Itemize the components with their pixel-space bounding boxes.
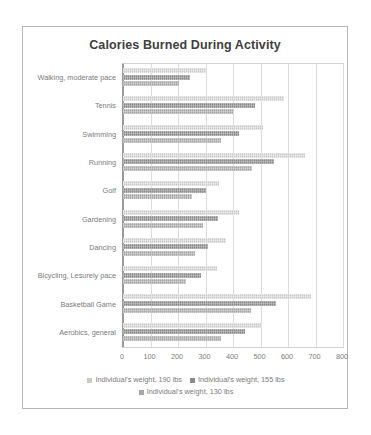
bar-group	[123, 177, 343, 205]
bar-group	[123, 319, 343, 347]
category-label: Dancing	[89, 242, 116, 251]
bar	[123, 294, 311, 299]
bar-group	[123, 262, 343, 290]
bar	[123, 68, 206, 73]
legend-label: Individual's weight, 190 lbs	[95, 374, 182, 386]
bar	[123, 125, 263, 130]
x-tick-label: 300	[198, 352, 210, 361]
category-label: Walking, moderate pace	[38, 73, 116, 82]
bar	[123, 273, 201, 278]
category-label: Golf	[103, 186, 116, 195]
bar-group	[123, 64, 343, 92]
plot-wrapper: Walking, moderate paceTennisSwimmingRunn…	[23, 63, 349, 363]
legend-row-primary: Individual's weight, 190 lbsIndividual's…	[23, 374, 349, 386]
legend-item[interactable]: Individual's weight, 130 lbs	[139, 386, 234, 398]
legend-swatch-icon	[190, 378, 195, 383]
bar	[123, 109, 233, 114]
bar-group	[123, 92, 343, 120]
legend-item[interactable]: Individual's weight, 155 lbs	[190, 374, 285, 386]
chart-legend: Individual's weight, 190 lbsIndividual's…	[23, 374, 349, 398]
bar	[123, 131, 239, 136]
bar	[123, 323, 262, 328]
category-axis-labels: Walking, moderate paceTennisSwimmingRunn…	[23, 63, 120, 348]
x-tick-label: 100	[143, 352, 155, 361]
bar	[123, 75, 190, 80]
bar	[123, 159, 274, 164]
category-label: Basketball Game	[60, 299, 116, 308]
bar	[123, 251, 195, 256]
bar	[123, 96, 284, 101]
category-label: Swimming	[82, 129, 116, 138]
bar	[123, 194, 192, 199]
bar	[123, 266, 217, 271]
bar	[123, 336, 221, 341]
bar	[123, 308, 251, 313]
bar-group	[123, 206, 343, 234]
bar	[123, 181, 219, 186]
x-tick-label: 200	[171, 352, 183, 361]
x-tick-label: 600	[281, 352, 293, 361]
x-tick-label: 0	[120, 352, 124, 361]
bar	[123, 238, 226, 243]
chart-container: Calories Burned During Activity Walking,…	[22, 26, 348, 409]
bar	[123, 244, 208, 249]
category-label: Bicycling, Lesurely pace	[38, 271, 116, 280]
x-tick-label: 800	[336, 352, 348, 361]
gridline-800	[343, 64, 344, 347]
legend-row-secondary: Individual's weight, 130 lbs	[23, 386, 349, 398]
x-tick-label: 700	[308, 352, 320, 361]
bar-group	[123, 149, 343, 177]
x-tick-label: 400	[226, 352, 238, 361]
bar	[123, 166, 252, 171]
bar	[123, 103, 255, 108]
bar	[123, 138, 221, 143]
bar	[123, 216, 218, 221]
x-tick-label: 500	[253, 352, 265, 361]
chart-title: Calories Burned During Activity	[23, 38, 347, 52]
bar	[123, 301, 276, 306]
legend-swatch-icon	[87, 378, 92, 383]
legend-swatch-icon	[139, 390, 144, 395]
bar	[123, 210, 239, 215]
plot-area	[122, 63, 344, 348]
bar	[123, 153, 305, 158]
bar	[123, 223, 203, 228]
bar-group	[123, 121, 343, 149]
legend-label: Individual's weight, 130 lbs	[147, 386, 234, 398]
bar-group	[123, 234, 343, 262]
bar	[123, 329, 245, 334]
bar	[123, 81, 179, 86]
legend-item[interactable]: Individual's weight, 190 lbs	[87, 374, 182, 386]
bar	[123, 279, 186, 284]
bar	[123, 188, 206, 193]
category-label: Aerobics, general	[59, 327, 116, 336]
category-label: Running	[89, 158, 116, 167]
category-label: Tennis	[95, 101, 116, 110]
category-label: Gardening	[82, 214, 116, 223]
legend-label: Individual's weight, 155 lbs	[198, 374, 285, 386]
bar-group	[123, 290, 343, 318]
